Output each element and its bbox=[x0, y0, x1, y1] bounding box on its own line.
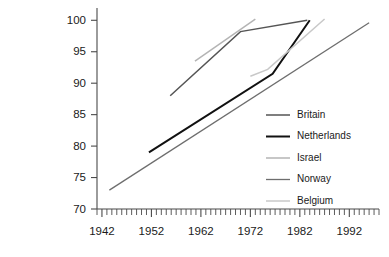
x-tick-label: 1962 bbox=[188, 225, 214, 237]
y-tick-label: 100 bbox=[67, 14, 86, 26]
legend-label: Belgium bbox=[297, 195, 333, 206]
y-axis: 707580859095100 bbox=[67, 8, 97, 215]
legend-label: Netherlands bbox=[297, 130, 351, 141]
x-tick-label: 1972 bbox=[238, 225, 264, 237]
line-chart: 707580859095100 194219521962197219821992… bbox=[0, 0, 389, 257]
y-tick-label: 75 bbox=[73, 171, 86, 183]
x-tick-label: 1982 bbox=[287, 225, 313, 237]
legend-item-norway: Norway bbox=[266, 173, 331, 184]
series-line-britain bbox=[170, 20, 307, 95]
legend-label: Norway bbox=[297, 173, 331, 184]
y-tick-label: 90 bbox=[73, 77, 86, 89]
legend-item-israel: Israel bbox=[266, 152, 321, 163]
legend-label: Britain bbox=[297, 109, 325, 120]
legend-item-belgium: Belgium bbox=[266, 195, 333, 206]
legend-label: Israel bbox=[297, 152, 321, 163]
series-line-israel bbox=[195, 19, 255, 61]
chart-canvas: 707580859095100 194219521962197219821992… bbox=[0, 0, 389, 257]
series-line-netherlands bbox=[149, 20, 310, 152]
y-tick-label: 80 bbox=[73, 140, 86, 152]
x-tick-label: 1942 bbox=[89, 225, 115, 237]
y-tick-label: 85 bbox=[73, 108, 86, 120]
series-lines bbox=[109, 19, 369, 190]
y-tick-label: 70 bbox=[73, 203, 86, 215]
x-tick-label: 1952 bbox=[139, 225, 165, 237]
x-tick-label: 1992 bbox=[337, 225, 363, 237]
chart-legend: BritainNetherlandsIsraelNorwayBelgium bbox=[266, 109, 351, 206]
legend-item-netherlands: Netherlands bbox=[266, 130, 351, 141]
series-line-norway bbox=[109, 23, 369, 190]
x-axis: 194219521962197219821992 bbox=[89, 209, 379, 237]
legend-item-britain: Britain bbox=[266, 109, 325, 120]
y-tick-label: 95 bbox=[73, 45, 86, 57]
